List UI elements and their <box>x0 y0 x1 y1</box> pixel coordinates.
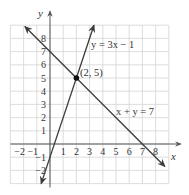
x-tick-label: 1 <box>61 146 66 157</box>
x-tick-label: −2 <box>14 146 25 157</box>
x-tick-label: 5 <box>114 146 119 157</box>
y-tick-label: −1 <box>35 152 46 163</box>
x-axis-label: x <box>170 150 176 162</box>
x-tick-label: 3 <box>87 146 92 157</box>
line2-equation-label: x + y = 7 <box>116 106 154 117</box>
x-tick-label: 2 <box>74 146 79 157</box>
x-tick-label: 4 <box>100 146 105 157</box>
intersection-point <box>74 75 80 81</box>
y-tick-label: 3 <box>41 99 46 110</box>
y-tick-label: 6 <box>41 59 46 70</box>
grid-lines <box>10 25 168 183</box>
y-tick-label: 5 <box>41 73 46 84</box>
y-axis-label: y <box>37 7 43 19</box>
y-tick-label: 8 <box>41 33 46 44</box>
line1-equation-label: y = 3x − 1 <box>91 39 134 50</box>
y-tick-label: 4 <box>41 86 46 97</box>
x-tick-label: 7 <box>140 146 145 157</box>
intersection-label: (2, 5) <box>80 67 103 79</box>
coordinate-plane-chart: −2−112345678 87654321−1−2 x y y = 3x − 1… <box>0 0 189 195</box>
y-tick-label: 1 <box>41 125 46 136</box>
x-tick-label: 6 <box>127 146 132 157</box>
y-tick-label: 2 <box>41 112 46 123</box>
